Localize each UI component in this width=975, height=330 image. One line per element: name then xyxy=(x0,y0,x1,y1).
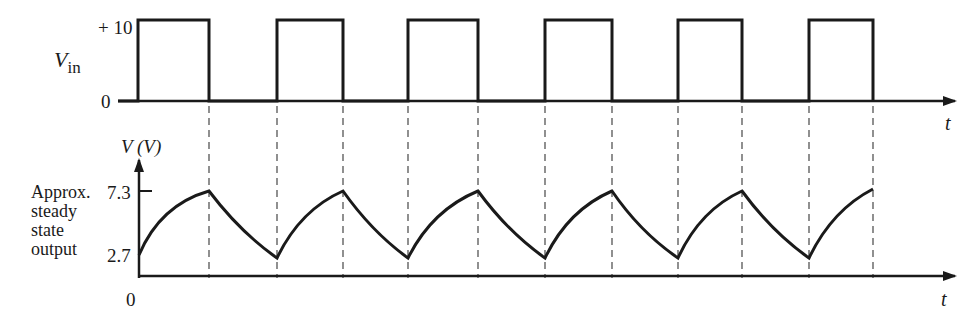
waveform-diagram: + 10 0 Vin t V (V) 7.3 2.7 0 t Approx. s… xyxy=(0,0,975,330)
high-level-label: + 10 xyxy=(98,17,132,38)
vin-label: Vin xyxy=(54,47,81,77)
output-panel: V (V) 7.3 2.7 0 t Approx. steady state o… xyxy=(31,136,955,310)
svg-text:Approx.: Approx. xyxy=(31,182,91,202)
tick-label-2-7: 2.7 xyxy=(107,245,131,266)
origin-label: 0 xyxy=(126,289,136,310)
input-panel: + 10 0 Vin t xyxy=(54,17,955,134)
input-square-wave xyxy=(118,20,873,101)
svg-text:state: state xyxy=(31,220,64,240)
svg-text:output: output xyxy=(31,239,77,259)
tick-label-7-3: 7.3 xyxy=(107,182,131,203)
dashed-guides xyxy=(209,106,873,278)
svg-text:steady: steady xyxy=(31,201,77,221)
output-axis-label: V (V) xyxy=(121,136,161,158)
output-t-label: t xyxy=(941,288,947,310)
steady-state-annotation: Approx. steady state output xyxy=(31,182,91,259)
input-t-label: t xyxy=(945,112,951,134)
zero-level-label: 0 xyxy=(101,91,111,112)
output-waveform xyxy=(139,189,873,258)
